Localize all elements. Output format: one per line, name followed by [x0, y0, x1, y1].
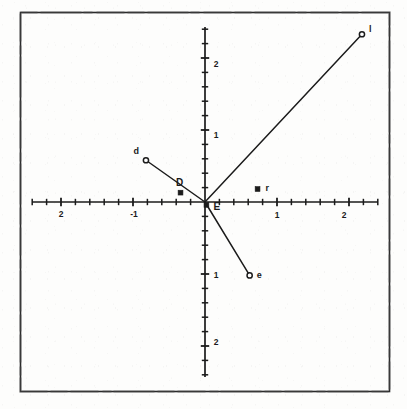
y-tick-label: 1 [214, 130, 219, 140]
data-point-label-e: e [257, 270, 262, 280]
y-tick-label: 2 [214, 59, 219, 69]
data-marker-e [247, 273, 252, 278]
data-point-label-r: r [266, 183, 270, 193]
data-point-label-d: d [133, 146, 139, 156]
data-point-label-E: E [213, 201, 220, 212]
x-tick-label: 1 [275, 210, 280, 220]
data-marker-r [255, 187, 260, 192]
x-tick-label: 2 [59, 209, 64, 219]
data-point-label-D: D [176, 177, 183, 188]
data-marker-D [178, 190, 183, 195]
data-marker-d [143, 158, 148, 163]
x-tick-label: 2 [342, 210, 347, 220]
x-tick-label: -1 [130, 209, 138, 219]
vector-segments [146, 34, 362, 275]
data-markers [143, 32, 364, 278]
data-point-label-l: l [369, 24, 372, 34]
vector-segment-l [205, 34, 362, 202]
figure-panel: 2 -1 1 2 2 1 1 2 ldeDrE [0, 0, 407, 409]
scatter-plot: 2 -1 1 2 2 1 1 2 ldeDrE [0, 0, 407, 409]
y-tick-label: 2 [214, 337, 219, 347]
data-marker-l [359, 32, 364, 37]
x-axis-tick-labels: 2 -1 1 2 [59, 209, 347, 220]
y-tick-label: 1 [214, 270, 219, 280]
vector-segment-e [205, 202, 250, 275]
data-marker-E [204, 202, 209, 207]
